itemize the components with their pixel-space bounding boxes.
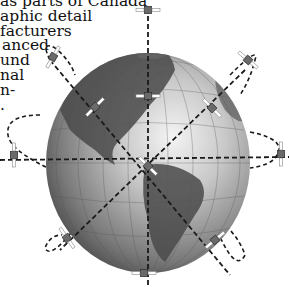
globe-satellite-diagram <box>0 0 289 287</box>
satellite-icon <box>237 50 260 71</box>
satellite-icon <box>44 45 62 69</box>
satellite-icon <box>11 143 18 167</box>
satellite-icon <box>278 142 285 166</box>
satellite-icon <box>136 7 160 14</box>
